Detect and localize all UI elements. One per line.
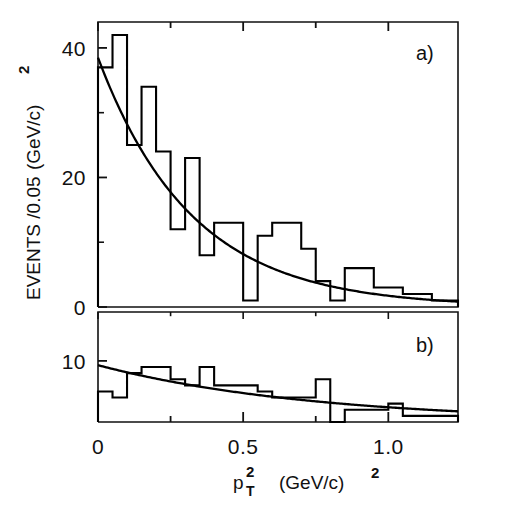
- panel-a-y-label-0: 0: [74, 296, 86, 319]
- y-title-main: EVENTS /0.05: [23, 176, 44, 300]
- x-title-p: p: [233, 472, 244, 493]
- x-title-unit-exponent: 2: [371, 464, 379, 481]
- y-title-unit: (GeV/c): [23, 105, 44, 170]
- panel-b-label: b): [416, 334, 434, 356]
- x-title-subscript-T: T: [246, 483, 255, 499]
- x-title-unit: (GeV/c): [279, 472, 344, 493]
- physics-histogram-figure: a) 40200 b) 10 00.51.0 p T 2 (GeV/c) 2 E…: [0, 0, 519, 523]
- x-label-0.5: 0.5: [228, 435, 259, 458]
- figure-container: a) 40200 b) 10 00.51.0 p T 2 (GeV/c) 2 E…: [0, 0, 519, 523]
- panel-b-y-label-10: 10: [62, 350, 86, 373]
- x-title-superscript-2: 2: [246, 463, 254, 480]
- panel-a-y-label-40: 40: [62, 37, 86, 60]
- panel-a-y-label-20: 20: [62, 166, 86, 189]
- x-label-1.0: 1.0: [373, 435, 404, 458]
- y-title-exponent: 2: [15, 66, 32, 74]
- panel-b-y-tick-labels: 10: [62, 350, 86, 373]
- panel-a-label: a): [416, 42, 434, 64]
- x-label-0: 0: [92, 435, 104, 458]
